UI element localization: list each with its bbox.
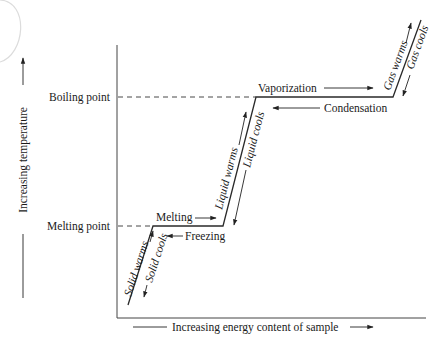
solid-cools-label: Solid cools (142, 231, 169, 284)
liquid-warms-label: Liquid warms (212, 145, 241, 211)
gas-segment-labels: Gas warms Gas cools (381, 23, 431, 96)
gas-warms-arrow-icon (406, 23, 411, 43)
solid-cools-arrow-icon (144, 285, 147, 297)
y-axis-label: Increasing temperature (17, 107, 30, 213)
decorative-arc (0, 0, 21, 62)
condensation-label: Condensation (324, 102, 387, 114)
x-axis-label-group: Increasing energy content of sample (133, 321, 373, 334)
liquid-segment-labels: Liquid warms Liquid cools (212, 110, 267, 225)
boil-segment-labels: Vaporization Condensation (258, 82, 387, 114)
y-axis-label-group: Increasing temperature (17, 58, 30, 298)
boiling-point-label: Boiling point (49, 91, 111, 104)
heating-curve-diagram: Increasing temperature Boiling point Mel… (0, 0, 447, 348)
melting-label: Melting (156, 211, 193, 224)
vaporization-label: Vaporization (258, 82, 317, 95)
freezing-label: Freezing (185, 230, 225, 243)
melting-point-label: Melting point (47, 220, 111, 233)
x-axis-label: Increasing energy content of sample (172, 321, 338, 334)
heating-curve-line (128, 20, 421, 305)
solid-segment-labels: Solid warms Solid cools (121, 231, 169, 298)
gas-cools-arrow-icon (403, 75, 410, 96)
